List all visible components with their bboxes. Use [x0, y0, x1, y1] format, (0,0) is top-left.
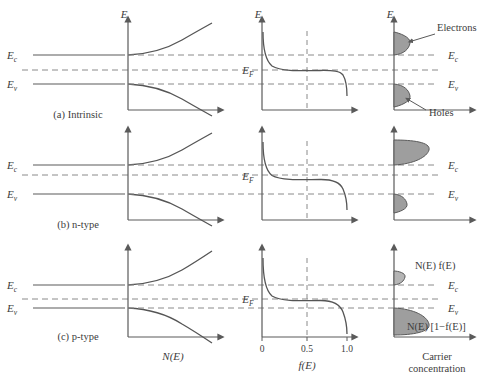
row-caption-intrinsic: (a) Intrinsic [53, 109, 103, 121]
semiconductor-band-diagram-figure: Ec Ev (a) Intrinsic E E EF E [0, 0, 487, 382]
fermi-axis-label: f(E) [298, 359, 315, 372]
energy-axis-label: E [120, 8, 128, 20]
fermi-tick-one: 1.0 [341, 344, 353, 354]
row-caption-n-type: (b) n-type [57, 219, 99, 231]
dos-axis-label: N(E) [161, 350, 184, 363]
row-caption-p-type: (c) p-type [57, 331, 98, 343]
hole-distribution-annotation: N(E) [1−f(E)] [407, 321, 466, 333]
carrier-axis-label-line1: Carrier [422, 351, 452, 362]
energy-axis-label: E [386, 8, 394, 20]
electron-distribution-annotation: N(E) f(E) [415, 260, 456, 272]
electrons-annotation: Electrons [437, 22, 477, 33]
energy-axis-label: E [254, 8, 262, 20]
fermi-tick-0: 0 [260, 344, 265, 354]
holes-annotation: Holes [429, 107, 454, 118]
fermi-tick-half: 0.5 [301, 344, 313, 354]
carrier-axis-label-line2: concentration [408, 363, 466, 374]
